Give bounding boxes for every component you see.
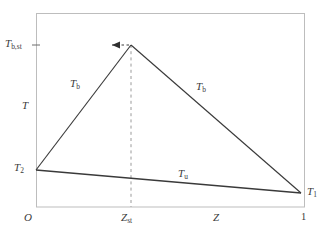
curve-tu-line [36, 170, 301, 193]
y-axis-label: T [22, 100, 28, 111]
curve-tb-left-leg [36, 45, 131, 170]
figure-canvas: Tb,st T T2 O Zst Z 1 Tb Tb Tu T1 [0, 0, 328, 241]
curve-label-tb-right: Tb [196, 81, 206, 92]
x-tick-label-zst: Zst [121, 212, 132, 223]
x-tick-label-one: 1 [301, 212, 306, 223]
curve-label-tu: Tu [178, 168, 188, 179]
x-axis-label: Z [213, 212, 219, 223]
curve-label-tb-left: Tb [70, 78, 80, 89]
y-tick-label-tbst: Tb,st [5, 38, 22, 49]
curve-tb-right-leg [131, 45, 301, 193]
apex-arrow-group [112, 42, 129, 49]
plot-area [0, 0, 328, 241]
leftward-arrow-icon [112, 42, 120, 49]
x-axis-origin-label: O [24, 212, 32, 223]
plot-frame [37, 14, 305, 208]
label-t1-right-vertex: T1 [307, 186, 317, 197]
label-t2-left-vertex: T2 [14, 162, 24, 173]
